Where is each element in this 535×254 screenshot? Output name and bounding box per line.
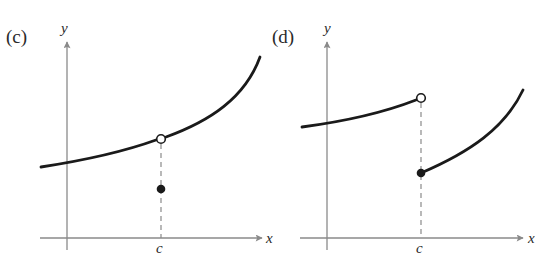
panel-c: (c) y x c [6,20,273,254]
figure: (c) y x c (d) y x c [0,0,535,254]
filled-point-d [417,169,426,178]
y-axis-label-c: y [59,20,68,36]
panel-d: (d) y x c [272,20,535,254]
open-circle-d [417,94,426,103]
tick-label-c-panel-c: c [156,240,163,254]
curve-right-c [166,57,260,137]
panel-label-d: (d) [272,26,294,48]
tick-label-c-panel-d: c [416,240,423,254]
filled-point-c [157,185,166,194]
curve-left-c [41,140,156,167]
curve-right-d [421,90,523,173]
panel-label-c: (c) [6,26,27,48]
x-axis-label-d: x [527,230,535,246]
x-axis-label-c: x [265,230,273,246]
y-axis-label-d: y [322,20,331,36]
open-circle-c [157,135,166,144]
curve-left-d [302,100,416,127]
